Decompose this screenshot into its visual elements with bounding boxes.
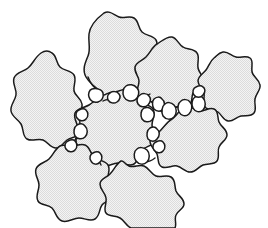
- pebble-09: [192, 96, 205, 112]
- pebble-01: [89, 89, 104, 103]
- figure-canvas: [0, 0, 268, 228]
- pebble-10: [193, 86, 205, 97]
- pebble-13: [65, 140, 77, 152]
- pebble-05: [141, 107, 154, 121]
- pebble-14: [90, 152, 102, 164]
- pebble-08: [178, 100, 192, 116]
- pebble-17: [153, 141, 165, 153]
- pebble-12: [74, 124, 87, 139]
- pebble-04: [137, 94, 150, 107]
- pebble-07: [162, 103, 176, 120]
- pebble-16: [147, 127, 159, 141]
- pebble-11: [76, 109, 88, 121]
- pebble-15: [134, 148, 149, 165]
- pebble-03: [123, 85, 139, 101]
- pebble-02: [108, 92, 120, 103]
- granular-microstructure-drawing: [0, 0, 268, 228]
